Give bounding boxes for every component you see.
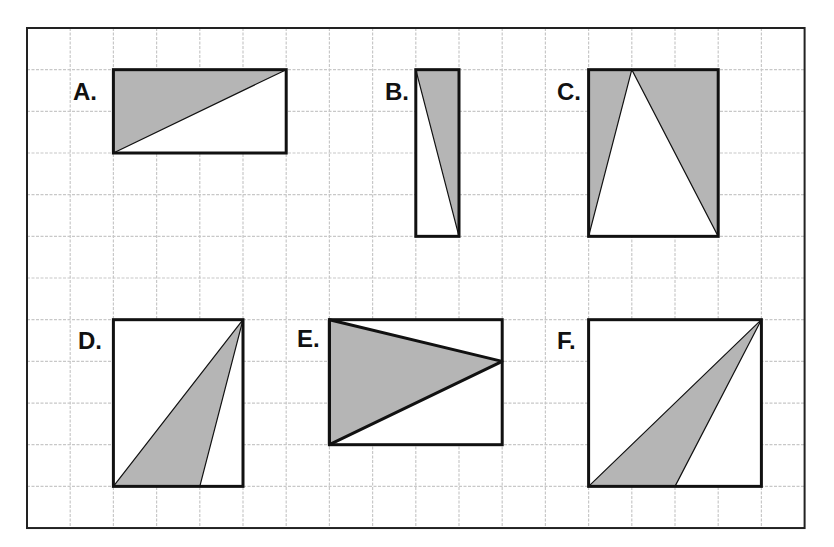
figure-label-a: A. (73, 80, 97, 104)
grid-canvas (0, 0, 834, 547)
figure-label-d: D. (78, 329, 102, 353)
figure-label-e: E. (297, 327, 320, 351)
figure-f (589, 320, 762, 487)
figure-label-c: C. (557, 80, 581, 104)
figure-d (113, 320, 243, 487)
figure-c (589, 70, 719, 237)
figure-b (416, 70, 459, 237)
grid-diagram: A. B. C. D. E. F. (0, 0, 834, 547)
figure-label-f: F. (557, 329, 576, 353)
figure-label-b: B. (385, 80, 409, 104)
figure-a (113, 70, 286, 153)
figure-e (329, 320, 502, 445)
